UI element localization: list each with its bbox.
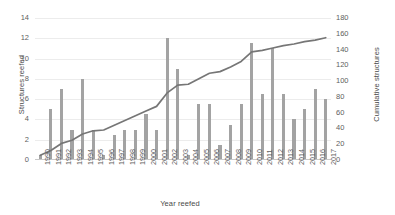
x-axis-tick-label: 1998 [128, 149, 137, 165]
x-axis-tick-label: 1999 [138, 149, 147, 165]
x-axis-tick-label: 1991 [54, 149, 63, 165]
x-axis-tick-label: 2000 [149, 149, 158, 165]
x-axis-tick-label: 2003 [181, 149, 190, 165]
x-axis-tick-label: 1990 [43, 149, 52, 165]
y-axis-left-tick-label: 0 [11, 155, 29, 164]
y-axis-left-tick-label: 6 [11, 94, 29, 103]
x-axis-ticks: 1990199119921993199419951996199719981999… [35, 163, 331, 199]
x-axis-tick-label: 2015 [308, 149, 317, 165]
plot-area [35, 18, 331, 160]
y-axis-left-ticks: 02468101214 [11, 0, 29, 215]
x-axis-tick-label: 1994 [86, 149, 95, 165]
x-axis-tick-label: 1996 [107, 149, 116, 165]
x-axis-tick-label: 2008 [234, 149, 243, 165]
y-axis-left-tick-label: 14 [11, 13, 29, 22]
y-axis-right-tick-label: 140 [336, 45, 358, 54]
y-axis-left-tick-label: 12 [11, 33, 29, 42]
x-axis-tick-label: 2010 [255, 149, 264, 165]
y-axis-right-tick-label: 180 [336, 13, 358, 22]
x-axis-tick-label: 1992 [64, 149, 73, 165]
x-axis-tick-label: 2002 [170, 149, 179, 165]
x-axis-title: Year reefed [0, 199, 360, 208]
x-axis-tick-label: 2006 [212, 149, 221, 165]
x-axis-tick-label: 1993 [75, 149, 84, 165]
x-axis-tick-label: 2007 [223, 149, 232, 165]
y-axis-right-tick-label: 0 [336, 155, 358, 164]
y-axis-right-tick-label: 80 [336, 92, 358, 101]
y-axis-right-tick-label: 40 [336, 123, 358, 132]
x-axis-tick-label: 1995 [96, 149, 105, 165]
y-axis-right-tick-label: 100 [336, 76, 358, 85]
x-axis-tick-label: 2001 [160, 149, 169, 165]
y-axis-right-tick-label: 120 [336, 60, 358, 69]
cumulative-line-series [35, 18, 331, 160]
cumulative-line-path [40, 38, 325, 156]
x-axis-tick-label: 2017 [329, 149, 338, 165]
y-axis-left-tick-label: 8 [11, 74, 29, 83]
y-axis-right-tick-label: 60 [336, 108, 358, 117]
y-axis-left-tick-label: 2 [11, 135, 29, 144]
x-axis-tick-label: 2013 [286, 149, 295, 165]
x-axis-tick-label: 2014 [297, 149, 306, 165]
y-axis-right-tick-label: 160 [336, 29, 358, 38]
chart-container: Structures reefed Cumulative structures … [0, 0, 395, 215]
y-axis-right-tick-label: 20 [336, 139, 358, 148]
x-axis-tick-label: 2016 [318, 149, 327, 165]
x-axis-tick-label: 2009 [244, 149, 253, 165]
x-axis-tick-label: 2005 [202, 149, 211, 165]
x-axis-tick-label: 1997 [117, 149, 126, 165]
x-axis-tick-label: 2004 [191, 149, 200, 165]
y-axis-right-title: Cumulative structures [372, 25, 381, 145]
x-axis-tick-label: 2011 [265, 150, 274, 165]
x-axis-tick-label: 2012 [276, 149, 285, 165]
y-axis-left-tick-label: 4 [11, 114, 29, 123]
y-axis-right-ticks: 020406080100120140160180 [336, 0, 358, 215]
y-axis-left-tick-label: 10 [11, 54, 29, 63]
